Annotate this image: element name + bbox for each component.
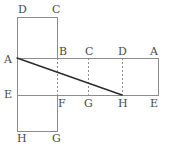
vertex-label-mid-f: F (58, 98, 66, 109)
geometry-figure: D C A B C D A E F G H E H G (0, 0, 170, 149)
bottom-rectangle (17, 95, 57, 131)
vertex-label-bottom-h: H (17, 133, 27, 144)
vertex-label-mid-d: D (118, 46, 127, 57)
vertex-label-top-d: D (18, 4, 27, 15)
vertex-label-left-e: E (4, 89, 12, 100)
geometry-figure-canvas (0, 0, 170, 149)
vertex-label-right-a: A (150, 46, 158, 57)
vertex-label-top-c: C (52, 4, 60, 15)
diagonal-path-a-to-h (17, 58, 122, 95)
vertex-label-right-e: E (150, 98, 158, 109)
top-rectangle (17, 17, 57, 58)
vertex-label-left-a: A (4, 54, 12, 65)
vertex-label-mid-c: C (85, 46, 93, 57)
vertex-label-mid-g: G (84, 98, 93, 109)
vertex-label-mid-b: B (59, 46, 67, 57)
vertex-label-bottom-g: G (52, 133, 61, 144)
vertex-label-mid-h: H (118, 98, 128, 109)
